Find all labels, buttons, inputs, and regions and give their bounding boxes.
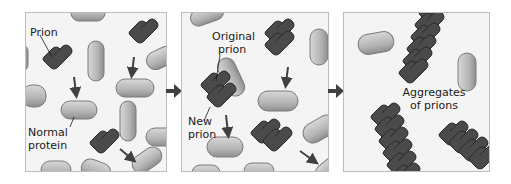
normal-protein-label-line1: Normal (28, 127, 68, 139)
prion-shape (90, 129, 119, 153)
normal-protein-shape (146, 128, 167, 146)
normal-protein-shape (357, 30, 396, 56)
normal-protein-shape (26, 45, 28, 71)
new-prion-label-line2: prion (188, 129, 216, 141)
aggregates-label-line1: Aggregates (396, 87, 472, 99)
normal-protein-shape (188, 13, 225, 28)
aggregates-label-line2: of prions (396, 100, 472, 112)
normal-protein-shape (258, 91, 298, 111)
normal-protein-shape (88, 41, 104, 81)
arrow-icon (286, 67, 288, 83)
prion-aggregate-top (399, 13, 448, 83)
arrow-icon (132, 57, 134, 73)
panel-stage-3: Aggregates of prions (343, 12, 490, 172)
normal-protein-shape (144, 44, 167, 73)
arrow-icon (226, 115, 228, 133)
normal-protein-label-line2: protein (28, 140, 67, 152)
stage-2-illustration (182, 13, 329, 172)
prion-label: Prion (30, 27, 58, 39)
stage-arrow-icon (328, 84, 344, 98)
stage-arrow-icon (166, 84, 182, 98)
original-prion-label-line1: Original (212, 31, 255, 43)
normal-protein-shape (79, 156, 113, 172)
normal-protein-shape (41, 161, 71, 172)
new-prion-label-line1: New (188, 116, 212, 128)
normal-protein-shape (129, 143, 166, 172)
prion-aggregate-bottom-left (371, 103, 420, 172)
normal-protein-shape (71, 13, 105, 21)
arrow-icon (300, 151, 314, 161)
normal-protein-shape (312, 154, 329, 172)
normal-protein-shape (61, 101, 97, 119)
normal-protein-shape (120, 101, 136, 141)
prion-shape (129, 19, 158, 43)
normal-protein-shape (116, 79, 154, 97)
normal-protein-shape (310, 29, 328, 65)
prion-aggregate-bottom-right (439, 121, 490, 169)
normal-protein-shape (299, 111, 329, 146)
arrow-icon (120, 149, 132, 159)
normal-protein-shape (26, 85, 46, 107)
arrow-icon (74, 77, 76, 93)
panel-stage-2: Original prion New prion (181, 12, 329, 172)
normal-protein-shape (244, 163, 274, 172)
normal-protein-shape (192, 165, 220, 172)
original-prion-label-line2: prion (218, 44, 246, 56)
panel-stage-1: Prion Normal protein (25, 12, 167, 172)
